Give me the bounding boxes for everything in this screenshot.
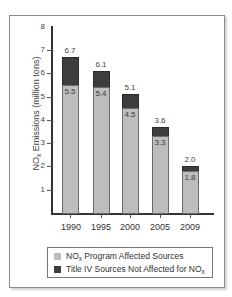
y-tick-label: 5 — [33, 92, 45, 101]
y-tick-label: 6 — [33, 68, 45, 77]
y-tick-label: 2 — [33, 161, 45, 170]
bar-affected-1990 — [62, 85, 79, 214]
legend: NOx Program Affected Sources Title IV So… — [47, 247, 213, 278]
bar-total-label: 5.1 — [115, 83, 145, 92]
x-tick-label: 2000 — [115, 222, 145, 232]
y-tick — [47, 190, 52, 191]
bar-base-label: 1.8 — [175, 173, 205, 182]
bar-total-label: 6.7 — [55, 46, 85, 55]
bar-not-affected-1990 — [62, 57, 79, 86]
x-tick — [101, 214, 102, 218]
bar-not-affected-1995 — [93, 71, 110, 88]
y-tick — [47, 143, 52, 144]
y-tick — [47, 50, 52, 51]
legend-swatch-dark — [54, 266, 61, 273]
legend-item-not-affected: Title IV Sources Not Affected for NOx — [54, 264, 205, 275]
bar-affected-2005 — [152, 136, 169, 214]
x-tick-label: 2005 — [145, 222, 175, 232]
y-tick-label: 3 — [33, 138, 45, 147]
x-tick — [130, 214, 131, 218]
bar-affected-2000 — [122, 108, 139, 214]
bar-total-label: 6.1 — [86, 60, 116, 69]
bar-affected-1995 — [93, 87, 110, 214]
x-tick-label: 2009 — [175, 222, 205, 232]
bar-base-label: 4.5 — [115, 110, 145, 119]
x-tick — [160, 214, 161, 218]
bar-total-label: 2.0 — [175, 155, 205, 164]
y-tick-label: 1 — [33, 185, 45, 194]
x-tick — [70, 214, 71, 218]
bar-not-affected-2000 — [122, 94, 139, 109]
y-tick — [47, 73, 52, 74]
legend-item-affected: NOx Program Affected Sources — [54, 251, 183, 262]
x-tick-label: 1995 — [86, 222, 116, 232]
y-tick — [47, 97, 52, 98]
x-tick-label: 1990 — [56, 222, 86, 232]
y-tick — [47, 120, 52, 121]
y-tick-label: 8 — [33, 22, 45, 31]
y-tick-label: 7 — [33, 45, 45, 54]
x-tick — [190, 214, 191, 218]
bar-total-label: 3.6 — [145, 116, 175, 125]
bar-base-label: 5.5 — [55, 87, 85, 96]
y-tick — [47, 166, 52, 167]
bar-base-label: 3.3 — [145, 138, 175, 147]
y-tick-label: 4 — [33, 115, 45, 124]
bar-base-label: 5.4 — [86, 89, 116, 98]
legend-swatch-light — [54, 253, 61, 260]
